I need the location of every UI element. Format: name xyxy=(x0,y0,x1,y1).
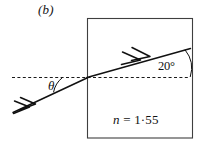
refraction-diagram-figure: (b) θ 20° n = 1·55 xyxy=(0,0,201,145)
refractive-index-label: n = 1·55 xyxy=(113,113,159,126)
refractive-index-equals: = xyxy=(120,112,134,127)
refracted-ray-arrowhead-front xyxy=(132,48,151,61)
refracted-ray-arrowhead-group xyxy=(122,48,151,65)
refractive-index-value: 1·55 xyxy=(134,112,159,127)
panel-label: (b) xyxy=(38,3,54,16)
refractive-index-symbol: n xyxy=(113,112,120,127)
incident-angle-label: θ xyxy=(48,79,54,92)
refracted-angle-label: 20° xyxy=(158,60,175,73)
twenty-degree-arc xyxy=(185,50,192,77)
